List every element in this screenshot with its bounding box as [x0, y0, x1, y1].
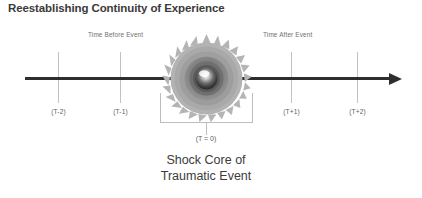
- axis-tick-label: (T-1): [113, 108, 127, 115]
- page-title: Reestablishing Continuity of Experience: [8, 2, 225, 14]
- axis-tick-label: (T+1): [283, 108, 299, 115]
- timeline-arrow-icon: [389, 73, 402, 85]
- caption-line-2: Traumatic Event: [161, 168, 252, 184]
- phase-label-after: Time After Event: [263, 31, 312, 38]
- shock-core-bracket: [160, 93, 253, 123]
- caption-line-1: Shock Core of: [161, 152, 252, 168]
- axis-tick-label: (T-2): [51, 108, 65, 115]
- center-time-label: (T = 0): [196, 135, 217, 142]
- phase-label-before: Time Before Event: [88, 31, 143, 38]
- shock-core-bracket-stem: [206, 122, 207, 135]
- axis-tick-label: (T+2): [349, 108, 365, 115]
- diagram-canvas: Reestablishing Continuity of Experience …: [0, 0, 422, 198]
- shock-core-caption: Shock Core of Traumatic Event: [161, 152, 252, 184]
